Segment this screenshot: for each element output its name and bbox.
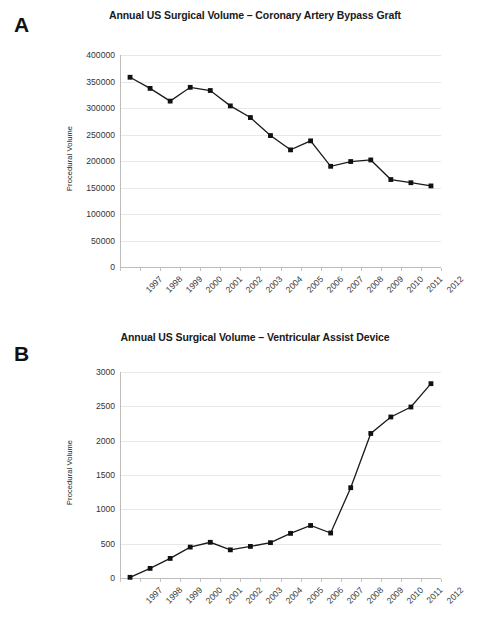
panel-b: B Annual US Surgical Volume – Ventricula… (0, 318, 478, 635)
data-point-marker (429, 381, 434, 386)
data-point-marker (288, 147, 293, 152)
data-point-marker (328, 164, 333, 169)
data-point-marker (188, 545, 193, 550)
data-point-marker (228, 547, 233, 552)
data-point-marker (388, 177, 393, 182)
data-point-marker (128, 575, 133, 580)
data-point-marker (308, 138, 313, 143)
data-point-marker (188, 85, 193, 90)
data-point-marker (388, 415, 393, 420)
data-point-marker (248, 115, 253, 120)
data-point-marker (208, 88, 213, 93)
data-point-marker (128, 75, 133, 80)
data-series-line (0, 0, 478, 318)
data-point-marker (148, 86, 153, 91)
data-point-marker (368, 431, 373, 436)
data-point-marker (208, 540, 213, 545)
data-point-marker (429, 184, 434, 189)
data-point-marker (308, 523, 313, 528)
data-point-marker (409, 180, 414, 185)
data-point-marker (148, 566, 153, 571)
data-point-marker (288, 531, 293, 536)
data-point-marker (268, 133, 273, 138)
data-point-marker (268, 540, 273, 545)
data-point-marker (248, 544, 253, 549)
plot-area-a: 0500001000001500002000002500003000003500… (0, 0, 478, 318)
data-point-marker (168, 99, 173, 104)
data-point-marker (348, 159, 353, 164)
data-point-marker (368, 158, 373, 163)
data-point-marker (228, 103, 233, 108)
data-point-marker (168, 556, 173, 561)
plot-area-b: 0500100015002000250030001997199819992000… (0, 318, 478, 635)
data-point-marker (409, 405, 414, 410)
data-point-marker (328, 531, 333, 536)
panel-a: A Annual US Surgical Volume – Coronary A… (0, 0, 478, 318)
data-point-marker (348, 485, 353, 490)
data-series-line (0, 318, 478, 635)
